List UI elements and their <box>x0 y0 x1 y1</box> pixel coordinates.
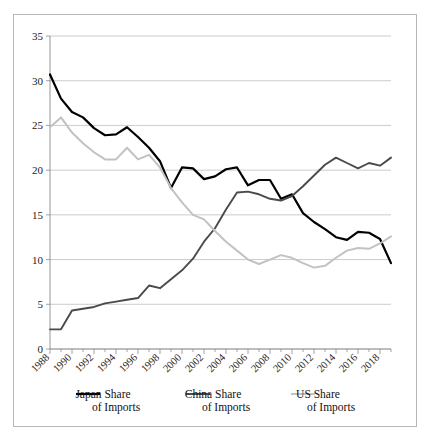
gridlines-group <box>50 36 391 349</box>
chart-legend: Japan Shareof ImportsChina Shareof Impor… <box>75 388 355 414</box>
x-tick-label-2018: 2018 <box>359 352 382 375</box>
y-tick-label-15: 15 <box>32 209 44 221</box>
legend-label-0-line1: Japan Share <box>75 388 130 401</box>
series-group <box>50 74 391 329</box>
x-tick-label-2016: 2016 <box>337 352 360 375</box>
x-tick-label-2002: 2002 <box>183 352 206 375</box>
x-tick-label-1990: 1990 <box>51 352 74 375</box>
y-tick-label-25: 25 <box>32 119 44 131</box>
series-line-china <box>50 158 391 330</box>
x-tick-label-2012: 2012 <box>293 352 316 375</box>
legend-label-2-line1: US Share <box>296 388 340 400</box>
legend-label-0-line2: of Imports <box>92 401 141 414</box>
chart-frame: 05101520253035 1988199019921994199619982… <box>13 14 417 427</box>
x-tick-label-2000: 2000 <box>161 352 184 375</box>
x-tick-label-2006: 2006 <box>227 352 250 375</box>
legend-label-2-line2: of Imports <box>307 401 356 414</box>
y-tick-label-10: 10 <box>32 254 44 266</box>
x-tick-label-1988: 1988 <box>29 352 52 375</box>
line-chart: 05101520253035 1988199019921994199619982… <box>14 15 416 426</box>
y-tick-label-35: 35 <box>32 30 44 42</box>
x-tick-label-1998: 1998 <box>139 352 162 375</box>
y-tick-label-5: 5 <box>38 298 44 310</box>
legend-label-1-line2: of Imports <box>202 401 251 414</box>
y-tick-label-30: 30 <box>32 75 44 87</box>
series-line-japan <box>50 74 391 263</box>
legend-label-1-line1: China Share <box>185 388 242 400</box>
x-tick-label-2010: 2010 <box>271 352 294 375</box>
x-axis-ticks-group: 1988199019921994199619982000200220042006… <box>29 349 391 374</box>
y-tick-label-20: 20 <box>32 164 44 176</box>
x-tick-label-2004: 2004 <box>205 351 228 374</box>
x-tick-label-2014: 2014 <box>315 351 338 374</box>
axis-lines-group <box>50 36 391 349</box>
x-tick-label-2008: 2008 <box>249 352 272 375</box>
x-tick-label-1996: 1996 <box>117 352 140 375</box>
x-tick-label-1994: 1994 <box>95 351 118 374</box>
y-axis-ticks-group: 05101520253035 <box>32 30 50 355</box>
series-line-us <box>50 117 391 267</box>
x-tick-label-1992: 1992 <box>73 352 96 375</box>
